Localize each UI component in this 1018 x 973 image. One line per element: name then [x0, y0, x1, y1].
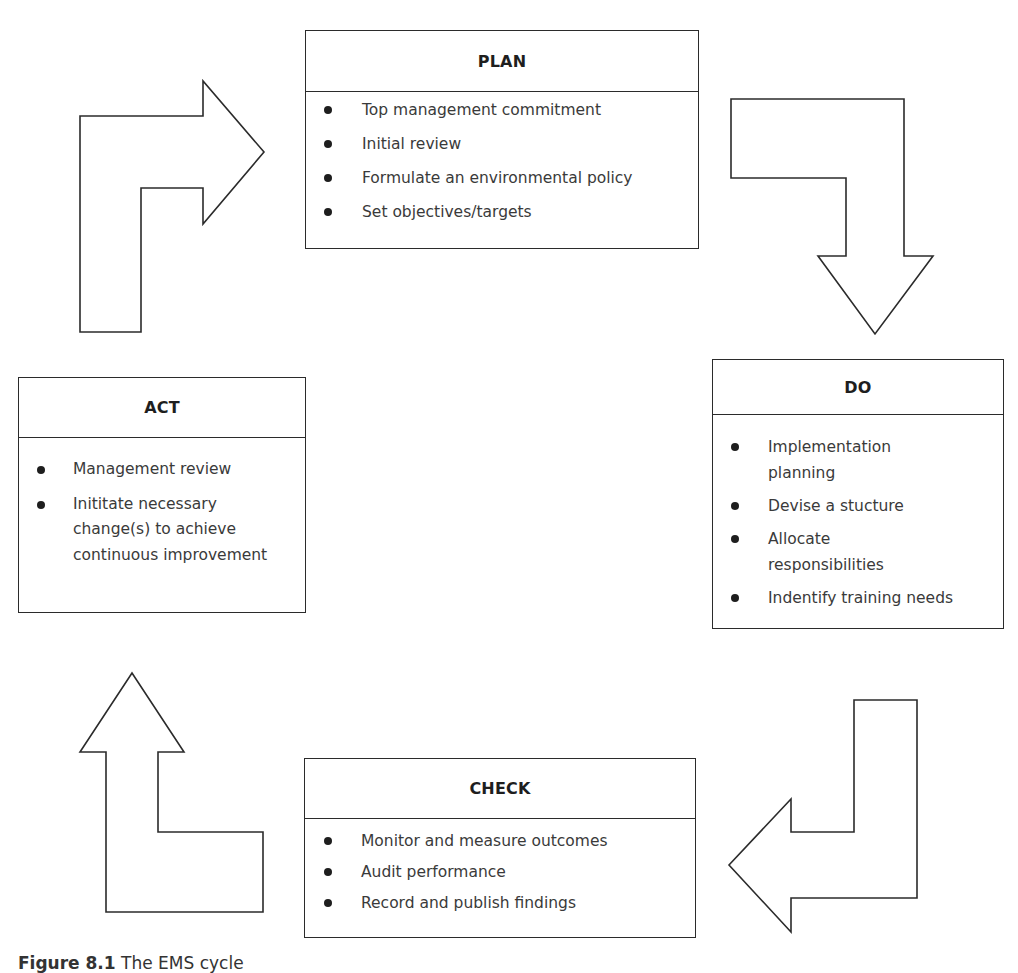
list-item-text: Indentify training needs [768, 589, 953, 607]
bullet-icon [324, 868, 332, 876]
arrow-check-to-act-icon [80, 673, 263, 912]
do-heading: DO [713, 360, 1003, 415]
list-item: Audit performance [305, 859, 695, 886]
bullet-icon [324, 140, 332, 148]
act-list: Management review Inititate necessary ch… [19, 438, 305, 568]
bullet-icon [37, 501, 45, 509]
check-list: Monitor and measure outcomes Audit perfo… [305, 819, 695, 917]
list-item-text: Audit performance [361, 863, 506, 881]
list-item: Top management commitment [306, 97, 698, 123]
list-item: Allocate responsibilities [713, 526, 928, 578]
list-item: Devise a stucture [713, 493, 1003, 519]
bullet-icon [324, 899, 332, 907]
list-item-text: Management review [73, 460, 231, 478]
list-item-text: Inititate necessary change(s) to achieve… [73, 495, 267, 564]
plan-list: Top management commitment Initial review… [306, 92, 698, 225]
figure-label: Figure 8.1 [18, 953, 116, 973]
bullet-icon [731, 443, 739, 451]
list-item-text: Initial review [362, 135, 461, 153]
plan-heading: PLAN [306, 31, 698, 92]
do-box: DO Implementation planning Devise a stuc… [712, 359, 1004, 629]
bullet-icon [731, 594, 739, 602]
act-box: ACT Management review Inititate necessar… [18, 377, 306, 613]
figure-caption-text: The EMS cycle [121, 953, 244, 973]
list-item: Monitor and measure outcomes [305, 828, 695, 855]
list-item: Implementation planning [713, 434, 928, 486]
list-item-text: Record and publish findings [361, 894, 576, 912]
list-item-text: Allocate responsibilities [768, 530, 884, 574]
bullet-icon [731, 535, 739, 543]
list-item: Management review [19, 457, 305, 483]
list-item-text: Monitor and measure outcomes [361, 832, 608, 850]
list-item: Indentify training needs [713, 585, 1003, 611]
list-item: Set objectives/targets [306, 199, 698, 225]
list-item-text: Top management commitment [362, 101, 601, 119]
bullet-icon [324, 837, 332, 845]
bullet-icon [324, 106, 332, 114]
list-item-text: Formulate an environmental policy [362, 169, 633, 187]
list-item: Formulate an environmental policy [306, 165, 698, 191]
list-item-text: Devise a stucture [768, 497, 904, 515]
figure-caption: Figure 8.1 The EMS cycle [18, 953, 244, 973]
bullet-icon [731, 502, 739, 510]
do-list: Implementation planning Devise a stuctur… [713, 415, 1003, 611]
check-box: CHECK Monitor and measure outcomes Audit… [304, 758, 696, 938]
list-item: Record and publish findings [305, 890, 695, 917]
bullet-icon [324, 208, 332, 216]
arrow-do-to-check-icon [729, 700, 917, 932]
list-item: Inititate necessary change(s) to achieve… [19, 492, 273, 569]
plan-box: PLAN Top management commitment Initial r… [305, 30, 699, 249]
arrow-act-to-plan-icon [80, 81, 264, 332]
bullet-icon [324, 174, 332, 182]
arrow-plan-to-do-icon [731, 99, 933, 334]
check-heading: CHECK [305, 759, 695, 819]
list-item: Initial review [306, 131, 698, 157]
bullet-icon [37, 466, 45, 474]
list-item-text: Set objectives/targets [362, 203, 532, 221]
list-item-text: Implementation planning [768, 438, 891, 482]
act-heading: ACT [19, 378, 305, 438]
